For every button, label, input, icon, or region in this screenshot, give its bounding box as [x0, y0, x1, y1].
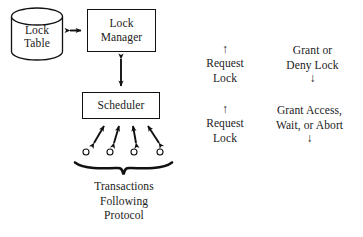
lock-table-label: Lock Table	[10, 24, 64, 50]
arrow-transaction-4	[148, 126, 159, 143]
lock-table-label-line1: Lock	[10, 24, 64, 37]
scheduler-label: Scheduler	[98, 99, 145, 113]
lock-manager-label-line1: Lock	[101, 17, 143, 31]
annotation-request-lock-upper-line2: Lock	[185, 71, 265, 86]
annotation-request-lock-upper: ↑ Request Lock	[185, 43, 265, 85]
annotation-grant-access-wait-abort-line1: Grant Access,	[256, 103, 363, 118]
transactions-caption: Transactions Following Protocol	[58, 179, 190, 223]
lock-manager-diagram: Lock Table Lock Manager Scheduler Lock M…	[0, 0, 363, 237]
transaction-circle-2	[107, 149, 113, 155]
transactions-caption-line3: Protocol	[58, 208, 190, 223]
transaction-circles	[83, 149, 163, 155]
annotation-grant-access-wait-abort-line2: Wait, or Abort	[256, 118, 363, 133]
lock-manager-label: Lock Manager	[101, 17, 143, 44]
arrows-scheduler-transactions	[94, 126, 159, 143]
annotation-request-lock-lower-line1: Request	[185, 116, 265, 131]
lock-manager-node: Lock Manager	[87, 9, 156, 52]
arrow-transaction-1	[94, 126, 104, 143]
down-arrow-icon: ↓	[262, 72, 363, 85]
down-arrow-icon: ↓	[256, 132, 363, 145]
lock-manager-label-line2: Manager	[101, 31, 143, 45]
transaction-circle-3	[131, 149, 137, 155]
annotation-grant-or-deny-lock: Grant or Deny Lock ↓	[262, 43, 363, 85]
annotation-grant-access-wait-abort: Grant Access, Wait, or Abort ↓	[256, 103, 363, 145]
up-arrow-icon: ↑	[185, 43, 265, 56]
transactions-brace	[75, 163, 172, 175]
annotation-request-lock-upper-line1: Request	[185, 56, 265, 71]
lock-table-node: Lock Table	[10, 7, 64, 61]
transactions-caption-line1: Transactions	[58, 179, 190, 194]
transactions-caption-line2: Following	[58, 194, 190, 209]
transaction-circle-1	[83, 149, 89, 155]
transaction-circle-4	[157, 149, 163, 155]
annotation-grant-or-deny-lock-line2: Deny Lock	[262, 58, 363, 73]
arrow-transaction-3	[133, 126, 136, 143]
annotation-grant-or-deny-lock-line1: Grant or	[262, 43, 363, 58]
up-arrow-icon: ↑	[185, 103, 265, 116]
annotation-request-lock-lower-line2: Lock	[185, 131, 265, 146]
lock-table-label-line2: Table	[10, 37, 64, 50]
scheduler-node: Scheduler	[82, 92, 160, 119]
annotation-request-lock-lower: ↑ Request Lock	[185, 103, 265, 145]
arrow-transaction-2	[114, 126, 119, 143]
